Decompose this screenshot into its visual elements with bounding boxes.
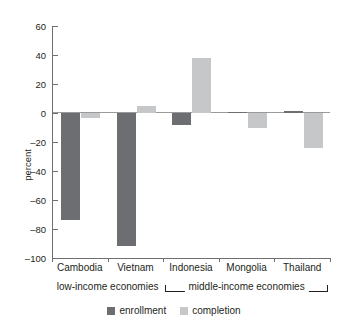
legend-label-completion: completion: [192, 305, 240, 316]
y-axis-tick: [53, 26, 58, 27]
x-axis-separator: [163, 258, 164, 262]
bar-completion: [192, 58, 211, 113]
x-axis-separator: [52, 258, 53, 262]
bar-enrollment: [228, 112, 247, 113]
legend-item-completion: completion: [180, 305, 240, 316]
y-axis-tick-label: 0: [41, 108, 46, 119]
bar-enrollment: [284, 111, 303, 113]
y-axis-tick-label: –80: [30, 224, 46, 235]
y-axis-tick-label: 20: [35, 79, 46, 90]
plot-area: 6040200–20–40–60–80–100: [52, 26, 330, 258]
bar-completion: [248, 113, 267, 128]
x-axis-separator: [274, 258, 275, 262]
y-axis-tick: [53, 84, 58, 85]
y-axis-tick: [53, 229, 58, 230]
y-axis-tick-label: –20: [30, 137, 46, 148]
x-axis-separator: [330, 258, 331, 262]
category-label-thailand: Thailand: [283, 262, 321, 273]
bar-completion: [81, 113, 100, 118]
bar-group: [275, 26, 331, 258]
legend-swatch-enrollment-icon: [107, 307, 115, 315]
bracket-label: low-income economies: [53, 281, 163, 292]
x-axis-separator: [219, 258, 220, 262]
bar-group: [53, 26, 109, 258]
category-label-indonesia: Indonesia: [169, 262, 212, 273]
y-axis-tick-label: –100: [25, 253, 46, 264]
y-axis-tick: [53, 142, 58, 143]
bar-group: [109, 26, 165, 258]
legend-label-enrollment: enrollment: [119, 305, 166, 316]
bar-enrollment: [172, 113, 191, 125]
y-axis-tick: [53, 55, 58, 56]
y-axis-tick-label: 60: [35, 21, 46, 32]
x-axis-separator: [108, 258, 109, 262]
chart-legend: enrollment completion: [0, 305, 348, 316]
category-label-cambodia: Cambodia: [57, 262, 103, 273]
bar-group: [220, 26, 276, 258]
bar-enrollment: [117, 113, 136, 246]
category-label-vietnam: Vietnam: [117, 262, 154, 273]
legend-swatch-completion-icon: [180, 307, 188, 315]
category-label-mongolia: Mongolia: [226, 262, 267, 273]
y-axis-tick-label: 40: [35, 50, 46, 61]
y-axis-tick: [53, 200, 58, 201]
x-axis-line: [52, 258, 330, 259]
y-axis-tick-label: –60: [30, 195, 46, 206]
y-axis-tick-label: –40: [30, 166, 46, 177]
bracket-label: middle-income economies: [185, 281, 309, 292]
bar-group: [164, 26, 220, 258]
y-axis-tick: [53, 113, 58, 114]
bar-chart: percent 6040200–20–40–60–80–100 Cambodia…: [0, 0, 348, 330]
bar-groups: [53, 26, 330, 258]
bar-completion: [304, 113, 323, 148]
legend-item-enrollment: enrollment: [107, 305, 166, 316]
bar-completion: [137, 106, 156, 113]
y-axis-tick: [53, 171, 58, 172]
bar-enrollment: [61, 113, 80, 220]
